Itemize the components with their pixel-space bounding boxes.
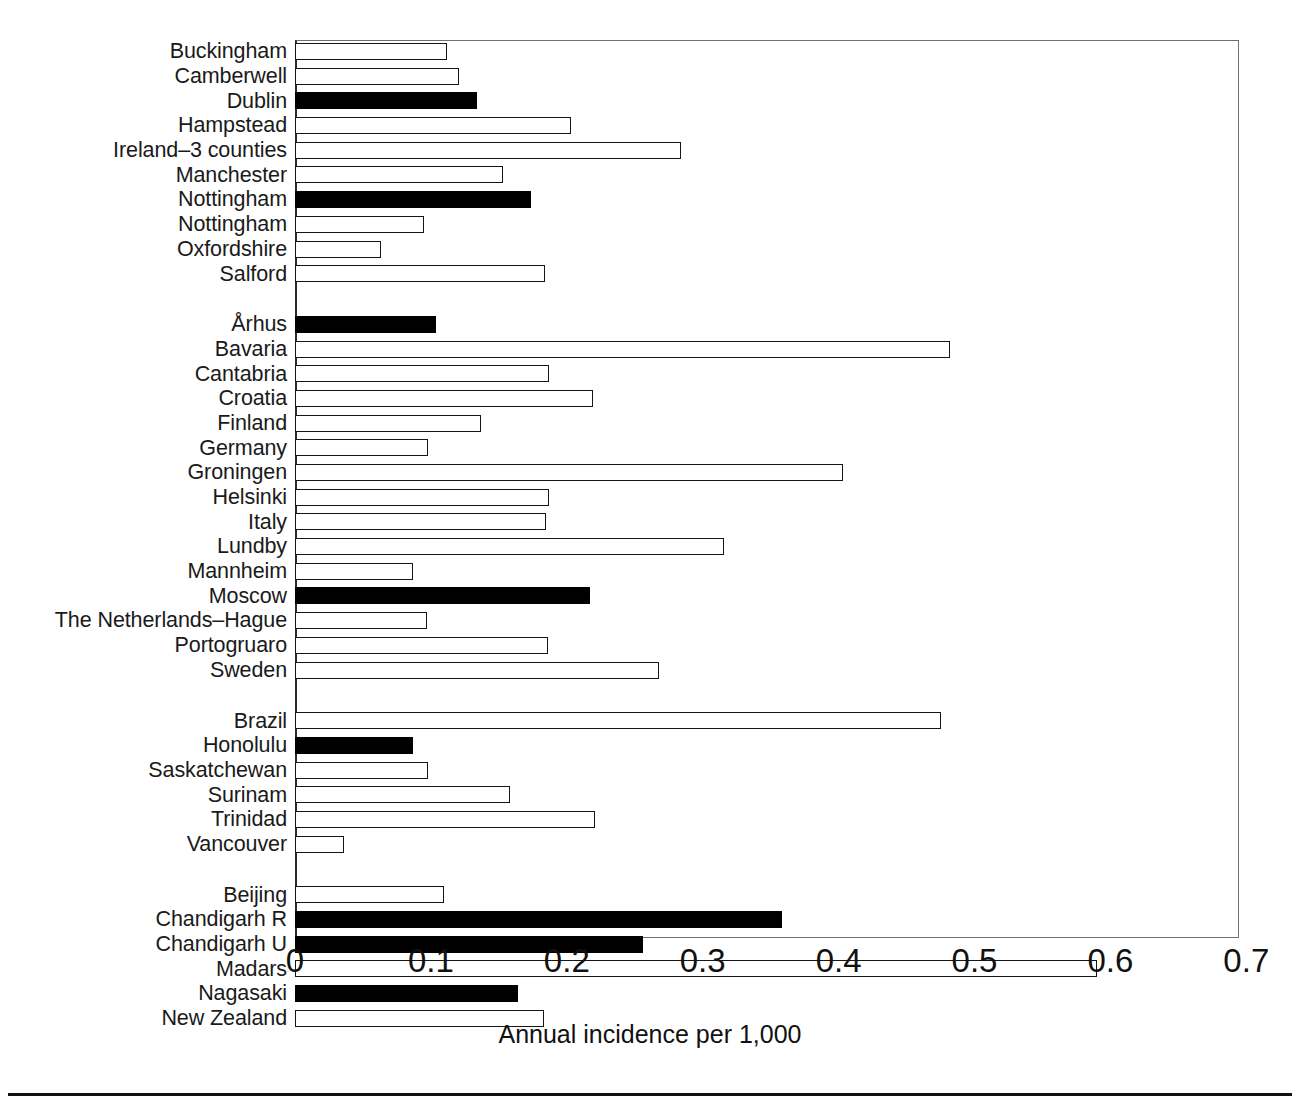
bar-row[interactable]: Nottingham: [0, 213, 1300, 238]
bar[interactable]: [295, 191, 531, 208]
bar[interactable]: [295, 92, 477, 109]
bar[interactable]: [295, 365, 549, 382]
bar-category-label: Honolulu: [203, 735, 287, 757]
bar-row[interactable]: Moscow: [0, 584, 1300, 609]
bar[interactable]: [295, 142, 681, 159]
bar-category-label: Surinam: [208, 784, 287, 806]
bar[interactable]: [295, 811, 595, 828]
bar-category-label: Dublin: [227, 91, 287, 113]
bar-row[interactable]: Saskatchewan: [0, 759, 1300, 784]
bar[interactable]: [295, 341, 950, 358]
bar[interactable]: [295, 662, 659, 679]
bar-row[interactable]: Lundby: [0, 535, 1300, 560]
bar[interactable]: [295, 786, 510, 803]
bar-row[interactable]: Hampstead: [0, 114, 1300, 139]
bar[interactable]: [295, 68, 459, 85]
bar[interactable]: [295, 390, 593, 407]
bar-category-label: Ireland–3 counties: [113, 140, 287, 162]
bar[interactable]: [295, 612, 427, 629]
bar-row[interactable]: Salford: [0, 262, 1300, 287]
bar-row[interactable]: Finland: [0, 412, 1300, 437]
x-tick-label: 0.6: [1087, 944, 1133, 977]
bar-row[interactable]: Beijing: [0, 883, 1300, 908]
bar-category-label: Brazil: [234, 710, 287, 732]
bar[interactable]: [295, 886, 444, 903]
bar[interactable]: [295, 166, 503, 183]
bar[interactable]: [295, 712, 941, 729]
bar-row[interactable]: Sweden: [0, 659, 1300, 684]
bar-row[interactable]: Ireland–3 counties: [0, 139, 1300, 164]
bar[interactable]: [295, 216, 424, 233]
bar[interactable]: [295, 513, 546, 530]
bar-row[interactable]: Århus: [0, 313, 1300, 338]
bottom-rule-divider: [8, 1093, 1292, 1096]
x-tick-label: 0.2: [544, 944, 590, 977]
bar-row[interactable]: Groningen: [0, 461, 1300, 486]
bar[interactable]: [295, 43, 447, 60]
bar-category-label: Århus: [231, 314, 287, 336]
bar-row[interactable]: Manchester: [0, 163, 1300, 188]
x-tick-label: 0.7: [1223, 944, 1269, 977]
bar-category-label: Saskatchewan: [148, 760, 287, 782]
bar[interactable]: [295, 637, 548, 654]
bar-rows-container: BuckinghamCamberwellDublinHampsteadIrela…: [0, 40, 1300, 938]
bar[interactable]: [295, 439, 428, 456]
x-axis-label: Annual incidence per 1,000: [0, 1020, 1300, 1049]
bar[interactable]: [295, 241, 381, 258]
bar-category-label: Lundby: [217, 536, 287, 558]
bar-row[interactable]: Trinidad: [0, 808, 1300, 833]
bar[interactable]: [295, 836, 344, 853]
bar-category-label: Finland: [217, 413, 287, 435]
bar-row[interactable]: Vancouver: [0, 833, 1300, 858]
bar-category-label: Groningen: [187, 462, 287, 484]
bar-category-label: Hampstead: [178, 115, 287, 137]
bar[interactable]: [295, 464, 843, 481]
bar[interactable]: [295, 563, 413, 580]
bar[interactable]: [295, 762, 428, 779]
bar[interactable]: [295, 538, 724, 555]
bar-category-label: Croatia: [218, 388, 287, 410]
bar-category-label: Beijing: [223, 884, 287, 906]
bar[interactable]: [295, 265, 545, 282]
bar-row[interactable]: Chandigarh R: [0, 908, 1300, 933]
bar[interactable]: [295, 489, 549, 506]
bar-category-label: Vancouver: [187, 834, 287, 856]
bar-row[interactable]: Cantabria: [0, 362, 1300, 387]
bar-row[interactable]: Germany: [0, 436, 1300, 461]
bar-row[interactable]: Camberwell: [0, 65, 1300, 90]
bar[interactable]: [295, 911, 782, 928]
x-tick-label: 0: [286, 944, 304, 977]
bar-row[interactable]: The Netherlands–Hague: [0, 609, 1300, 634]
bar-row[interactable]: Honolulu: [0, 734, 1300, 759]
bar[interactable]: [295, 316, 436, 333]
bar-row[interactable]: Portogruaro: [0, 634, 1300, 659]
bar-category-label: Sweden: [210, 660, 287, 682]
bar-row[interactable]: Oxfordshire: [0, 238, 1300, 263]
bar-category-label: Portogruaro: [175, 635, 287, 657]
bar-row[interactable]: Mannheim: [0, 560, 1300, 585]
bar-row[interactable]: Croatia: [0, 387, 1300, 412]
bar-row[interactable]: Helsinki: [0, 486, 1300, 511]
bar[interactable]: [295, 117, 571, 134]
bar-category-label: Trinidad: [211, 809, 287, 831]
incidence-bar-chart-figure: BuckinghamCamberwellDublinHampsteadIrela…: [0, 0, 1300, 1107]
x-tick-label: 0.1: [408, 944, 454, 977]
bar-category-label: Italy: [248, 512, 287, 534]
bar-row[interactable]: Surinam: [0, 783, 1300, 808]
bar[interactable]: [295, 587, 590, 604]
bar-category-label: Chandigarh R: [156, 909, 287, 931]
bar-category-label: Cantabria: [195, 363, 287, 385]
bar-group: BrazilHonoluluSaskatchewanSurinamTrinida…: [0, 709, 1300, 857]
bar[interactable]: [295, 737, 413, 754]
bar-row[interactable]: Dublin: [0, 89, 1300, 114]
bar[interactable]: [295, 415, 481, 432]
bar-category-label: Moscow: [209, 586, 287, 608]
bar-row[interactable]: Bavaria: [0, 338, 1300, 363]
bar-row[interactable]: Brazil: [0, 709, 1300, 734]
bar-category-label: Oxfordshire: [177, 239, 287, 261]
bar-row[interactable]: Buckingham: [0, 40, 1300, 65]
bar-category-label: Germany: [199, 437, 287, 459]
bar-category-label: Camberwell: [174, 66, 287, 88]
bar-row[interactable]: Italy: [0, 510, 1300, 535]
bar-row[interactable]: Nottingham: [0, 188, 1300, 213]
